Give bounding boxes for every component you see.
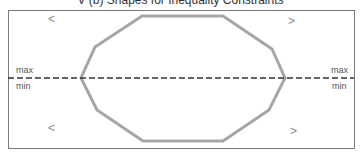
greater-than-symbol-top-right: > xyxy=(288,15,295,27)
greater-than-symbol-bottom-right: > xyxy=(290,125,297,137)
right-min-label: min xyxy=(332,82,347,91)
right-max-label: max xyxy=(331,66,348,75)
left-max-label: max xyxy=(16,66,33,75)
plot-frame xyxy=(9,11,355,149)
less-than-symbol-bottom-left: < xyxy=(48,122,55,134)
less-than-symbol-top-left: < xyxy=(48,13,55,25)
left-min-label: min xyxy=(16,82,31,91)
